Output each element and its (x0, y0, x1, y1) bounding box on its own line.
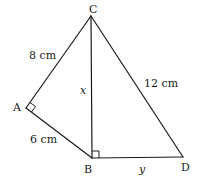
label-cd-length: 12 cm (144, 77, 179, 90)
right-angle-marker-a (30, 103, 36, 113)
label-ab-length: 6 cm (30, 133, 58, 146)
vertex-label-b: B (84, 163, 92, 176)
segment-cb (91, 16, 92, 158)
label-bd-y: y (138, 163, 146, 176)
label-ca-length: 8 cm (29, 49, 57, 62)
vertex-label-d: D (181, 161, 190, 174)
right-angle-marker-b (92, 151, 99, 158)
vertex-label-c: C (89, 3, 97, 16)
triangle-diagram: C A B D 8 cm 6 cm x 12 cm y (0, 0, 198, 177)
vertex-label-a: A (12, 101, 22, 114)
label-cb-x: x (80, 84, 87, 97)
segment-bd (92, 157, 183, 158)
